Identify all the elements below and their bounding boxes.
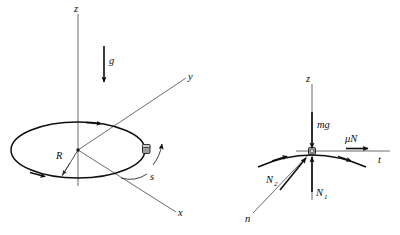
N2-force-label: N 2	[265, 174, 278, 188]
svg-text:N: N	[315, 187, 324, 198]
svg-text:1: 1	[324, 193, 328, 201]
figure-canvas: z y x g R s	[0, 0, 400, 235]
arc-length-leader	[121, 174, 147, 179]
right-panel-group: z t n mg μN N 1 N 2	[245, 73, 390, 224]
radius-label: R	[55, 150, 63, 161]
y-axis-label-left: y	[187, 71, 193, 82]
x-axis-label-left: x	[177, 207, 183, 218]
radius-arrowhead	[63, 163, 71, 175]
z-axis-label-left: z	[73, 3, 78, 14]
t-axis-label-right: t	[378, 154, 382, 165]
left-panel-group: z y x g R s	[11, 3, 193, 218]
hoop-center-dot	[76, 148, 79, 151]
bead-free-body	[309, 148, 316, 155]
physics-figure: z y x g R s	[0, 0, 400, 235]
y-axis-left	[78, 78, 186, 150]
gravity-label: g	[109, 55, 114, 66]
bead-on-hoop	[143, 145, 151, 154]
arc-length-label: s	[150, 171, 154, 182]
arc-length-arrow	[153, 144, 162, 165]
hoop-direction-arrow-top	[86, 123, 100, 124]
muN-force-label: μN	[344, 133, 358, 144]
svg-text:2: 2	[274, 180, 278, 188]
z-axis-label-right: z	[305, 73, 310, 84]
N2-force-arrow	[280, 158, 306, 190]
N1-force-label: N 1	[315, 187, 328, 201]
svg-text:N: N	[265, 174, 274, 185]
n-axis-label-right: n	[245, 213, 250, 224]
x-axis-left	[78, 150, 176, 212]
mg-force-label: mg	[317, 119, 330, 130]
